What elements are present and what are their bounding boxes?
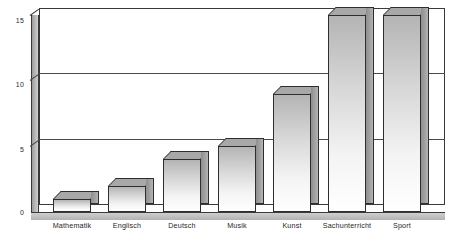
bar-sport[interactable] bbox=[383, 15, 421, 212]
bar-musik[interactable] bbox=[218, 146, 256, 212]
bar-side-face bbox=[201, 151, 209, 204]
bar-sachunterricht[interactable] bbox=[328, 15, 366, 212]
y-tick-label: 15 bbox=[0, 17, 24, 24]
bar-side-face bbox=[366, 7, 374, 204]
bar-front-face bbox=[218, 146, 256, 212]
x-tick-label-sport: Sport bbox=[367, 222, 437, 229]
bar-side-face bbox=[421, 7, 429, 204]
plot-area bbox=[31, 8, 445, 220]
y-axis: 15 10 5 0 bbox=[0, 0, 24, 240]
bar-side-face bbox=[146, 178, 154, 204]
x-axis-floor bbox=[31, 212, 445, 220]
bar-chart: 15 10 5 0 bbox=[0, 0, 452, 240]
bar-front-face bbox=[383, 15, 421, 212]
y-axis-wall bbox=[31, 15, 39, 212]
bar-front-face bbox=[273, 94, 311, 212]
bar-front-face bbox=[53, 199, 91, 212]
y-tick-label: 5 bbox=[0, 146, 24, 153]
y-tick-label: 0 bbox=[0, 209, 24, 216]
bar-front-face bbox=[108, 186, 146, 212]
bar-mathematik[interactable] bbox=[53, 199, 91, 212]
bar-side-face bbox=[91, 191, 99, 204]
bar-deutsch[interactable] bbox=[163, 159, 201, 212]
x-axis: Mathematik Englisch Deutsch Musik Kunst … bbox=[31, 222, 445, 238]
bar-kunst[interactable] bbox=[273, 94, 311, 212]
y-tick-label: 10 bbox=[0, 81, 24, 88]
bar-front-face bbox=[163, 159, 201, 212]
bar-side-face bbox=[256, 138, 264, 204]
bar-englisch[interactable] bbox=[108, 186, 146, 212]
bar-front-face bbox=[328, 15, 366, 212]
bar-side-face bbox=[311, 86, 319, 204]
